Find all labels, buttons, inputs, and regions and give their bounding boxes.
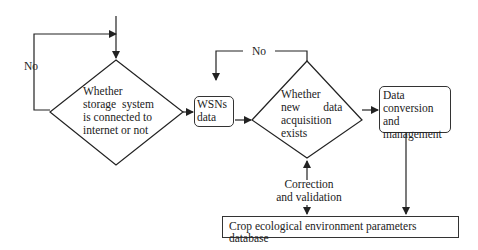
decision-storage-connected: Whether storage system is connected to i… — [83, 85, 155, 137]
wsn-data-node: WSNs data — [194, 96, 234, 127]
decision-new-data-line-2: new data — [281, 101, 337, 114]
edge-label-no-left: No — [24, 60, 38, 73]
decision-new-data-line-3: acquisition — [281, 114, 337, 127]
edge-label-correction: Correction and validation — [272, 178, 346, 204]
wsn-data-line-2: data — [197, 111, 231, 124]
data-conversion-node: Data conversion and management — [379, 86, 451, 133]
data-conversion-line-1: Data — [383, 89, 447, 102]
data-conversion-line-2: conversion and — [383, 102, 447, 128]
correction-line-2: and validation — [272, 191, 346, 204]
wsn-data-line-1: WSNs — [197, 98, 231, 111]
decision-storage-line-4: internet or not — [83, 124, 155, 137]
correction-line-1: Correction — [272, 178, 346, 191]
decision-storage-line-2: storage system — [83, 98, 155, 111]
data-conversion-line-3: management — [383, 128, 447, 141]
decision-new-data-line-1: Whether — [281, 88, 337, 101]
decision-new-data-line-4: exists — [281, 127, 337, 140]
decision-new-data: Whether new data acquisition exists — [281, 88, 337, 140]
database-node: Crop ecological environment parameters d… — [222, 216, 459, 238]
edge-label-no-top: No — [252, 45, 266, 58]
decision-storage-line-1: Whether — [83, 85, 155, 98]
decision-storage-line-3: is connected to — [83, 111, 155, 124]
